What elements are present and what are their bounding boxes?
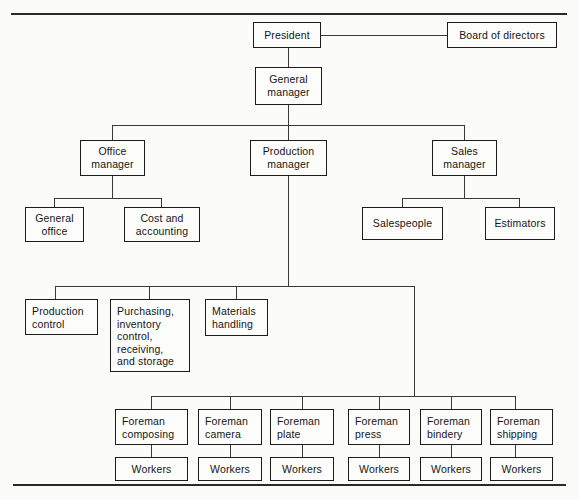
node-board-of-directors[interactable]: Board of directors — [447, 22, 557, 48]
bottom-horizontal-rule — [13, 484, 566, 486]
node-workers-shipping[interactable]: Workers — [490, 457, 553, 481]
connector-bus-to-production-control — [55, 286, 56, 299]
node-office-manager[interactable]: Office manager — [80, 140, 145, 176]
connector-bus-to-foreman-press — [379, 396, 380, 409]
connector-foremen-bus — [151, 396, 516, 397]
connector-bus-to-salespeople — [402, 198, 403, 207]
node-production-manager[interactable]: Production manager — [250, 140, 327, 176]
connector-production-bus-to-foremen — [414, 286, 415, 396]
node-general-office[interactable]: General office — [25, 207, 84, 242]
node-foreman-press[interactable]: Foreman press — [348, 409, 410, 445]
connector-president-to-board — [320, 35, 447, 36]
node-general-manager[interactable]: General manager — [255, 67, 322, 105]
connector-foreman-camera-to-workers — [230, 445, 231, 457]
node-foreman-composing[interactable]: Foreman composing — [115, 409, 188, 445]
connector-bus-to-general-office — [54, 198, 55, 207]
connector-office-manager-stem — [112, 176, 113, 198]
connector-bus-to-materials-handling — [236, 286, 237, 299]
connector-sales-manager-stem — [464, 176, 465, 198]
connector-production-staff-bus — [55, 286, 415, 287]
connector-bus-to-cost-accounting — [161, 198, 162, 207]
node-foreman-camera[interactable]: Foreman camera — [198, 409, 262, 445]
org-chart-canvas: President Board of directors General man… — [0, 0, 579, 500]
node-estimators[interactable]: Estimators — [485, 207, 555, 240]
connector-foreman-plate-to-workers — [302, 445, 303, 457]
connector-foreman-bindery-to-workers — [451, 445, 452, 457]
connector-office-children-bus — [54, 198, 162, 199]
node-foreman-shipping[interactable]: Foreman shipping — [490, 409, 553, 445]
node-production-control[interactable]: Production control — [25, 299, 98, 335]
connector-president-to-general-manager — [288, 48, 289, 67]
node-sales-manager[interactable]: Sales manager — [432, 140, 497, 176]
connector-bus-to-sales-manager — [464, 125, 465, 140]
connector-foreman-composing-to-workers — [151, 445, 152, 457]
node-workers-bindery[interactable]: Workers — [420, 457, 482, 481]
connector-bus-to-estimators — [519, 198, 520, 207]
top-horizontal-rule — [11, 13, 567, 15]
node-cost-and-accounting[interactable]: Cost and accounting — [124, 207, 200, 242]
connector-bus-to-production-manager — [288, 125, 289, 140]
node-foreman-plate[interactable]: Foreman plate — [270, 409, 334, 445]
connector-bus-to-foreman-shipping — [515, 396, 516, 409]
connector-foreman-press-to-workers — [379, 445, 380, 457]
node-workers-plate[interactable]: Workers — [270, 457, 334, 481]
connector-production-manager-stem — [288, 176, 289, 286]
node-workers-press[interactable]: Workers — [348, 457, 410, 481]
connector-bus-to-foreman-plate — [302, 396, 303, 409]
connector-bus-to-purchasing — [149, 286, 150, 299]
node-workers-composing[interactable]: Workers — [115, 457, 188, 481]
node-president[interactable]: President — [253, 22, 321, 48]
node-materials-handling[interactable]: Materials handling — [205, 299, 268, 336]
connector-bus-to-foreman-bindery — [451, 396, 452, 409]
connector-sales-children-bus — [402, 198, 520, 199]
connector-bus-to-foreman-camera — [230, 396, 231, 409]
connector-foreman-shipping-to-workers — [515, 445, 516, 457]
node-foreman-bindery[interactable]: Foreman bindery — [420, 409, 482, 445]
node-salespeople[interactable]: Salespeople — [362, 207, 443, 240]
node-workers-camera[interactable]: Workers — [198, 457, 262, 481]
connector-bus-to-foreman-composing — [151, 396, 152, 409]
connector-general-manager-stem — [288, 105, 289, 125]
connector-bus-to-office-manager — [112, 125, 113, 140]
node-purchasing-inventory-control[interactable]: Purchasing, inventory control, receiving… — [110, 299, 190, 372]
